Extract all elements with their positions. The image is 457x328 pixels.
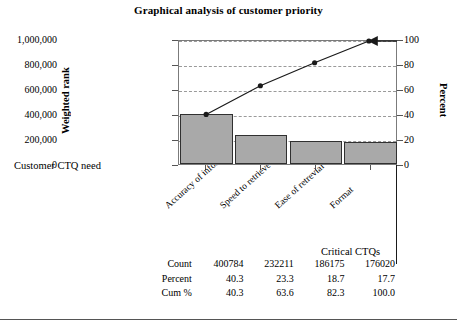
chart-title: Graphical analysis of customer priority (0, 4, 457, 16)
table-cell: 63.6 (248, 287, 298, 302)
bottom-divider (0, 319, 457, 320)
table-cell: 176020 (349, 258, 400, 273)
pareto-chart-figure: Graphical analysis of customer priority … (0, 0, 457, 328)
y2-axis-tick-label: 40 (404, 110, 434, 120)
table-cell: 82.3 (299, 287, 350, 302)
y-axis-tickmark (172, 165, 178, 166)
y2-axis-tick-label: 20 (404, 135, 434, 145)
y2-axis-title: Percent (436, 55, 450, 145)
table-row: Count400784232211186175176020 (140, 258, 400, 273)
y2-axis-tickmark (397, 90, 403, 91)
y-axis-title: Weighted rank (58, 42, 72, 160)
table-cell: 232211 (248, 258, 298, 273)
x-axis-category-label: Format (328, 185, 355, 211)
table-cell: 186175 (299, 258, 350, 273)
cumulative-line (206, 41, 369, 114)
x-axis-category-label: Ease of retrevial (273, 161, 326, 210)
cumulative-line-marker (312, 60, 317, 65)
cumulative-arrowhead-icon (368, 36, 378, 46)
y-axis-tick-label: 1,000,000 (0, 35, 57, 45)
plot-area (178, 40, 397, 165)
y2-axis-tick-label: 80 (404, 60, 434, 70)
table-cell: 100.0 (349, 287, 400, 302)
table-cell: 18.7 (299, 273, 350, 288)
critical-ctqs-annotation: Critical CTQs (321, 246, 380, 257)
x-axis-tickmark (370, 165, 371, 170)
table-cell: 400784 (198, 258, 249, 273)
cumulative-line-marker (204, 112, 209, 117)
table-cell: 40.3 (198, 287, 249, 302)
table-row: Percent40.323.318.717.7 (140, 273, 400, 288)
y-axis-tick-label: 200,000 (0, 135, 57, 145)
data-table: Count400784232211186175176020Percent40.3… (140, 258, 400, 302)
table-cell: 17.7 (349, 273, 400, 288)
y-axis-tick-label: 0 (0, 160, 57, 170)
x-axis-category-label: Speed to retrieve (218, 160, 273, 211)
y2-axis-tickmark (397, 40, 403, 41)
cumulative-line-marker (258, 83, 263, 88)
table-row: Cum %40.363.682.3100.0 (140, 287, 400, 302)
cumulative-line-series (179, 41, 396, 164)
table-cell: 40.3 (198, 273, 249, 288)
table-row-label: Cum % (140, 287, 198, 302)
y2-axis-tick-label: 100 (404, 35, 434, 45)
y-axis-tick-label: 600,000 (0, 85, 57, 95)
y-axis-tick-label: 400,000 (0, 110, 57, 120)
table-cell: 23.3 (248, 273, 298, 288)
y2-axis-tickmark (397, 165, 403, 166)
y2-axis-tickmark (397, 115, 403, 116)
y2-axis-tickmark (397, 65, 403, 66)
table-row-label: Percent (140, 273, 198, 288)
table-row-label: Count (140, 258, 198, 273)
y2-axis-tick-label: 0 (404, 160, 434, 170)
y2-axis-tick-label: 60 (404, 85, 434, 95)
y2-axis-tickmark (397, 140, 403, 141)
y-axis-tick-label: 800,000 (0, 60, 57, 70)
